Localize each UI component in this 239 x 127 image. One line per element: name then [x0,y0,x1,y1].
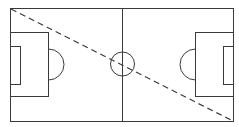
right-penalty-arc [180,49,196,80]
left-penalty-box [11,33,49,97]
right-goal-box [224,47,234,85]
right-penalty-box [196,33,234,97]
left-goal-box [11,47,21,85]
soccer-field-diagram [0,0,239,127]
left-penalty-arc [49,49,65,80]
